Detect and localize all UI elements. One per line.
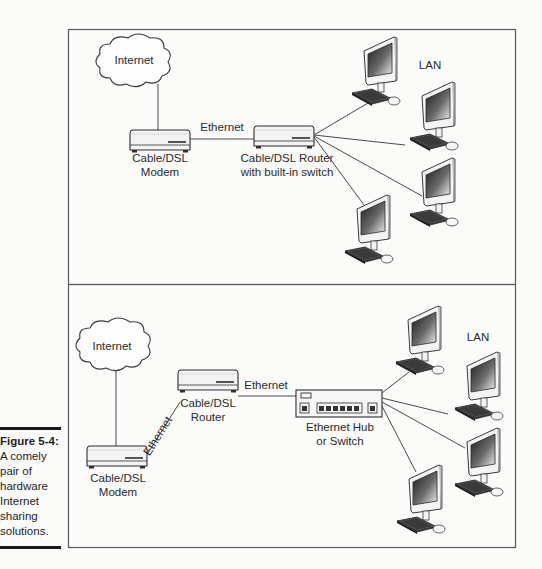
modem-label-1: Cable/DSL (90, 472, 146, 484)
computer-icon (455, 428, 503, 497)
hub-icon (296, 390, 382, 417)
network-diagram: Internet Cable/DSL Modem Ethernet Cable/… (0, 0, 542, 569)
ethernet-label: Ethernet (141, 414, 175, 458)
router-label-2: Router (191, 411, 226, 423)
computer-icon (410, 82, 458, 151)
caption-line: Internet (0, 494, 62, 509)
caption-line: solutions. (0, 524, 62, 539)
computer-icon (397, 465, 445, 534)
router-label-2: with built-in switch (240, 166, 334, 178)
computer-icon (455, 352, 503, 421)
lan-label: LAN (467, 331, 489, 343)
router-label-1: Cable/DSL (180, 397, 236, 409)
computer-icon (352, 37, 400, 106)
modem-label-2: Modem (99, 486, 137, 498)
caption-line: A comely (0, 449, 62, 464)
router-icon (254, 126, 314, 149)
router-icon (178, 370, 238, 393)
figure-number: Figure 5-4: (0, 434, 62, 449)
panel-top: Internet Cable/DSL Modem Ethernet Cable/… (69, 30, 516, 285)
caption-rule-top (0, 427, 61, 430)
panel-bottom: Internet Cable/DSL Modem Ethernet Cable/… (69, 285, 516, 548)
internet-label: Internet (93, 340, 133, 352)
lan-label: LAN (419, 59, 441, 71)
hub-label-1: Ethernet Hub (306, 421, 374, 433)
modem-icon (130, 130, 190, 153)
caption-rule-bottom (0, 546, 61, 549)
ethernet-label: Ethernet (244, 379, 288, 391)
figure-caption: Figure 5-4: A comely pair of hardware In… (0, 434, 62, 539)
caption-line: hardware (0, 479, 62, 494)
hub-label-2: or Switch (316, 435, 363, 447)
ethernet-label: Ethernet (200, 121, 244, 133)
computer-icon (396, 306, 444, 375)
modem-label-1: Cable/DSL (132, 152, 188, 164)
modem-label-2: Modem (141, 166, 179, 178)
router-label-1: Cable/DSL Router (241, 152, 334, 164)
modem-icon (87, 446, 147, 469)
computer-icon (345, 195, 393, 264)
computer-icon (410, 158, 458, 227)
internet-label: Internet (115, 54, 155, 66)
caption-line: pair of (0, 464, 62, 479)
caption-line: sharing (0, 509, 62, 524)
